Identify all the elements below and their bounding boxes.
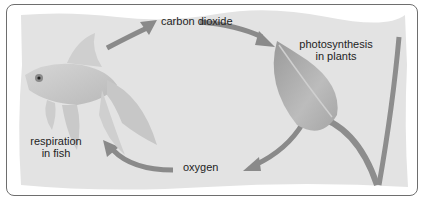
label-oxygen: oxygen — [183, 161, 218, 173]
label-photosynthesis: photosynthesis in plants — [291, 38, 381, 62]
label-photosynthesis-line2: in plants — [291, 50, 381, 62]
label-respiration-line1: respiration — [21, 135, 91, 147]
label-respiration: respiration in fish — [21, 135, 91, 159]
label-photosynthesis-line1: photosynthesis — [291, 38, 381, 50]
diagram-frame: carbon dioxide photosynthesis in plants … — [6, 4, 418, 196]
label-carbon-dioxide: carbon dioxide — [161, 15, 233, 27]
label-respiration-line2: in fish — [21, 147, 91, 159]
